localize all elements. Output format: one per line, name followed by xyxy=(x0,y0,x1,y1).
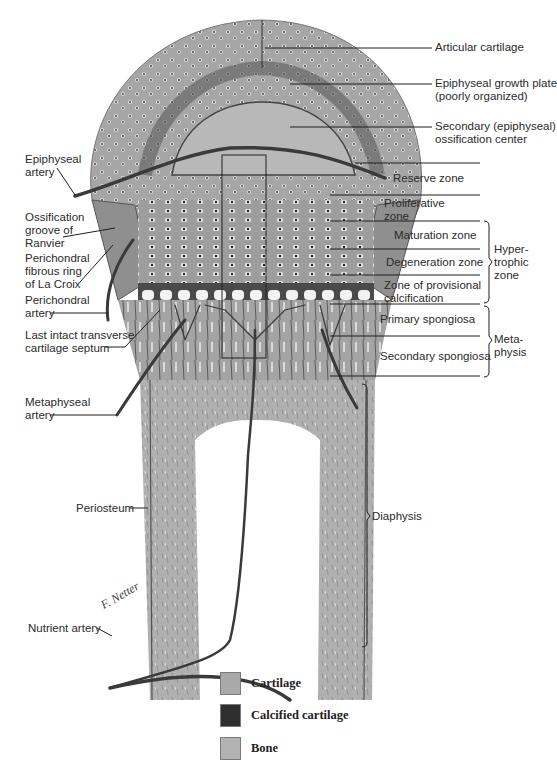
swatch-cartilage xyxy=(220,672,241,695)
label-line: of La Croix xyxy=(25,278,90,291)
label-line: Zone of provisional xyxy=(384,279,481,292)
label-primary-spongiosa: Primary spongiosa xyxy=(380,313,475,326)
label-ossification-groove: Ossification groove of Ranvier xyxy=(25,211,84,250)
label-line: groove of xyxy=(25,224,84,237)
label-nutrient-artery: Nutrient artery xyxy=(28,622,101,635)
label-line: physis xyxy=(494,346,527,359)
label-secondary-ossification-center: Secondary (epiphyseal) ossification cent… xyxy=(435,120,556,146)
label-line: Perichondral xyxy=(25,294,90,307)
label-line: zone xyxy=(494,269,529,282)
label-line: Hyper- xyxy=(494,243,529,256)
label-line: Metaphyseal xyxy=(25,396,90,409)
label-perichondral-artery: Perichondral artery xyxy=(25,294,90,320)
label-hypertrophic-zone: Hyper- trophic zone xyxy=(494,243,529,282)
label-provisional-calcification: Zone of provisional calcification xyxy=(384,279,481,305)
label-maturation-zone: Maturation zone xyxy=(394,229,476,242)
swatch-bone xyxy=(220,737,241,760)
label-epiphyseal-growth-plate: Epiphyseal growth plate (poorly organize… xyxy=(435,77,557,103)
label-line: Last intact transverse xyxy=(25,329,134,342)
label-periosteum: Periosteum xyxy=(76,502,134,515)
label-line: artery xyxy=(25,166,81,179)
swatch-calcified-cartilage xyxy=(220,704,241,727)
label-epiphyseal-artery: Epiphyseal artery xyxy=(25,153,81,179)
label-line: Ossification xyxy=(25,211,84,224)
label-line: ossification center xyxy=(435,133,556,146)
label-diaphysis: Diaphysis xyxy=(372,510,422,523)
label-line: trophic xyxy=(494,256,529,269)
metaphysis-bracket xyxy=(484,306,492,377)
diaphysis-shaft xyxy=(140,380,375,700)
label-line: artery xyxy=(25,307,90,320)
label-secondary-spongiosa: Secondary spongiosa xyxy=(380,350,491,363)
label-degeneration-zone: Degeneration zone xyxy=(386,256,483,269)
label-line: zone xyxy=(384,210,445,223)
label-line: calcification xyxy=(384,292,481,305)
legend-label: Cartilage xyxy=(251,676,301,691)
label-last-intact-septum: Last intact transverse cartilage septum xyxy=(25,329,134,355)
legend-item-bone: Bone xyxy=(220,736,278,760)
label-articular-cartilage: Articular cartilage xyxy=(435,41,524,54)
legend-label: Calcified cartilage xyxy=(251,708,349,723)
label-line: cartilage septum xyxy=(25,342,134,355)
legend-item-cartilage: Cartilage xyxy=(220,671,301,695)
label-perichondral-fibrous-ring: Perichondral fibrous ring of La Croix xyxy=(25,252,90,291)
label-line: Epiphyseal xyxy=(25,153,81,166)
label-proliferative-zone: Proliferative zone xyxy=(384,197,445,223)
label-metaphysis: Meta- physis xyxy=(494,333,527,359)
artist-signature: F. Netter xyxy=(97,579,141,613)
label-line: Epiphyseal growth plate xyxy=(435,77,557,90)
legend-item-calcified-cartilage: Calcified cartilage xyxy=(220,703,349,727)
label-line: (poorly organized) xyxy=(435,90,557,103)
label-reserve-zone: Reserve zone xyxy=(393,172,464,185)
label-metaphyseal-artery: Metaphyseal artery xyxy=(25,396,90,422)
label-line: Proliferative xyxy=(384,197,445,210)
legend-label: Bone xyxy=(251,741,278,756)
hypertrophic-bracket xyxy=(484,221,492,303)
label-line: Secondary (epiphyseal) xyxy=(435,120,556,133)
label-line: fibrous ring xyxy=(25,265,90,278)
label-line: Perichondral xyxy=(25,252,90,265)
label-line: artery xyxy=(25,409,90,422)
physeal-columns xyxy=(138,200,374,305)
label-line: Meta- xyxy=(494,333,527,346)
label-line: Ranvier xyxy=(25,237,84,250)
